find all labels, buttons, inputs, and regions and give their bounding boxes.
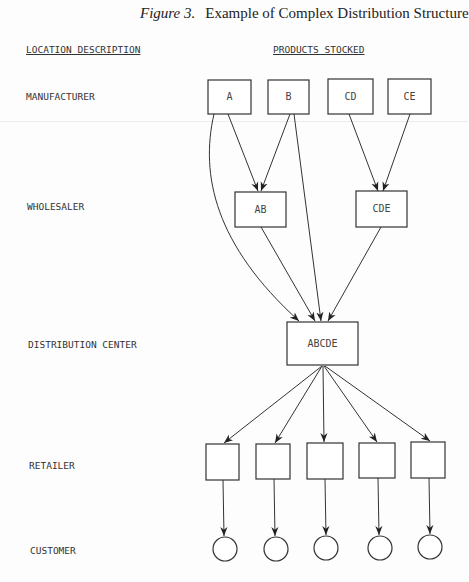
node-label-cd: CD (344, 91, 356, 102)
customer-3 (314, 536, 338, 560)
edge-ce-to-cde (383, 114, 410, 191)
node-label-abcde: ABCDE (307, 338, 337, 349)
edge-abcde-to-retailer-2 (275, 366, 322, 443)
edge-retailer-4-to-customer-4 (378, 478, 379, 535)
node-cde: CDE (356, 191, 407, 227)
customer-nodes (213, 535, 442, 561)
node-a: A (208, 80, 251, 114)
edge-retailer-2-to-customer-2 (274, 479, 275, 536)
customer-1 (213, 537, 237, 561)
node-label-a: A (226, 91, 232, 102)
node-label-ce: CE (403, 91, 415, 102)
node-ab: AB (235, 192, 286, 227)
edge-cde-to-abcde (328, 227, 381, 321)
edge-ab-to-abcde (261, 227, 315, 321)
edge-abcde-to-retailer-5 (325, 366, 430, 441)
customer-2 (264, 537, 288, 561)
edge-abcde-to-retailer-4 (324, 366, 377, 442)
node-abcde: ABCDE (287, 322, 358, 365)
retailer-2 (256, 444, 290, 479)
node-label-cde: CDE (372, 203, 390, 214)
edge-abcde-to-retailer-1 (224, 366, 322, 443)
customer-5 (418, 535, 442, 559)
node-cd: CD (328, 79, 373, 114)
retailer-4 (359, 443, 395, 478)
edge-retailer-3-to-customer-3 (325, 479, 326, 535)
edge-abcde-to-retailer-3 (323, 366, 324, 442)
edge-b-to-abcde (294, 114, 321, 321)
edge-a-to-ab (228, 114, 258, 191)
retailer-nodes (206, 442, 445, 480)
wholesaler-nodes: AB CDE (235, 191, 407, 227)
retailer-3 (307, 443, 343, 479)
node-label-b: B (285, 91, 291, 102)
manufacturer-nodes: A B CD CE (208, 79, 431, 114)
customer-4 (368, 536, 392, 560)
edge-b-to-ab (261, 114, 290, 191)
retailer-1 (206, 444, 239, 480)
edge-retailer-1-to-customer-1 (223, 480, 224, 536)
node-b: B (268, 80, 309, 114)
retailer-5 (411, 442, 445, 478)
edge-retailer-5-to-customer-5 (429, 478, 430, 534)
edge-cd-to-cde (349, 114, 378, 191)
node-label-ab: AB (254, 204, 266, 215)
node-ce: CE (388, 79, 431, 114)
